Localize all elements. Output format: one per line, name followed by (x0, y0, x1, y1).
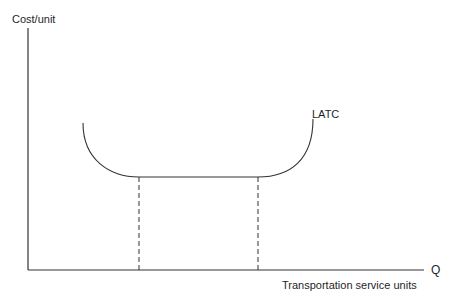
y-axis-label: Cost/unit (12, 13, 55, 25)
latc-diagram (0, 0, 453, 304)
x-axis-end-label: Q (431, 264, 440, 276)
latc-curve (83, 119, 313, 177)
curve-label: LATC (312, 108, 339, 120)
x-axis-label: Transportation service units (282, 279, 417, 291)
